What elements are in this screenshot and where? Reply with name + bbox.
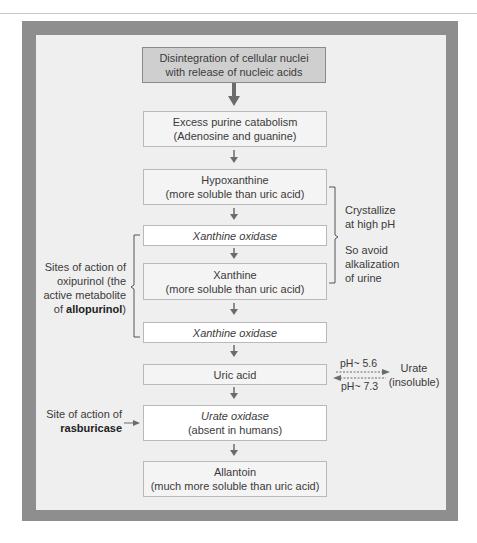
note-text: So avoid <box>345 243 399 257</box>
note-text: of allopurinol) <box>36 302 126 316</box>
ph-forward-label: pH~ 5.6 <box>340 356 377 370</box>
note-oxipurinol-sites: Sites of action of oxipurinol (the activ… <box>36 260 126 316</box>
note-text: Urate <box>386 361 442 375</box>
note-avoid-alkalization: So avoid alkalization of urine <box>345 243 399 285</box>
note-crystallize: Crystallize at high pH <box>345 203 396 231</box>
note-text: Crystallize <box>345 203 396 217</box>
note-text: oxipurinol (the <box>36 274 126 288</box>
ph-reverse-label: pH~ 7.3 <box>341 379 378 393</box>
drug-rasburicase: rasburicase <box>60 422 122 434</box>
urate-insoluble: Urate (insoluble) <box>386 361 442 389</box>
note-text: at high pH <box>345 217 396 231</box>
note-text: of urine <box>345 271 399 285</box>
note-text: alkalization <box>345 257 399 271</box>
note-rasburicase-site: Site of action of rasburicase <box>36 407 122 435</box>
note-text: (insoluble) <box>386 375 442 389</box>
drug-allopurinol: allopurinol <box>66 303 122 315</box>
note-text: Sites of action of <box>36 260 126 274</box>
note-text: active metabolite <box>36 288 126 302</box>
note-text: Site of action of <box>36 407 122 421</box>
